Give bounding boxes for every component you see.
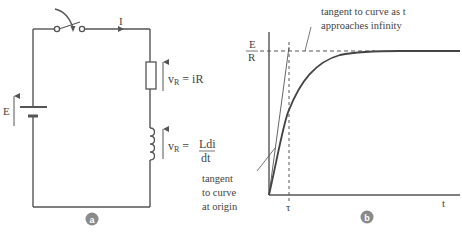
origin-annotation-line3: at origin [202,201,238,212]
x-axis-label: t [442,197,445,209]
y-level-denominator: R [248,51,256,63]
resistor-voltage-label: vR= iR [168,72,203,87]
inductor-voltage-label: vR= [168,139,189,154]
origin-annotation-line1: tangent [202,173,233,184]
circuit-diagram [33,29,150,207]
panel-b-badge-label: b [364,213,370,223]
resistor-voltage-equation: = iR [182,72,203,86]
resistor [146,62,156,89]
inductor-voltage-equals: = [182,139,189,153]
tau-label: τ [286,201,291,213]
resistor-voltage-subscript: R [174,78,180,87]
inductor-voltage-denominator: dt [201,151,211,165]
top-annotation-line2: approaches infinity [321,20,403,31]
current-curve [269,51,460,195]
inductor-voltage-numerator: Ldi [199,137,216,151]
switch [54,9,84,32]
switch-blade [59,22,80,29]
current-vs-time-graph: E R τ t tangent to curve as t approaches… [202,6,460,224]
inductor [150,128,155,160]
switch-terminal-left [54,26,59,31]
top-annotation-leader [305,27,311,51]
switch-terminal-right [79,26,84,31]
current-label: I [119,15,123,27]
y-level-numerator: E [249,38,256,50]
source-label: E [3,105,10,117]
top-annotation-line1: tangent to curve as t [321,6,406,17]
origin-annotation-line2: to curve [202,187,236,198]
battery [20,107,47,116]
inductor-voltage-subscript: R [174,145,180,154]
rl-circuit-figure: I E vR= iR vR= Ldi dt a E [0,0,462,234]
